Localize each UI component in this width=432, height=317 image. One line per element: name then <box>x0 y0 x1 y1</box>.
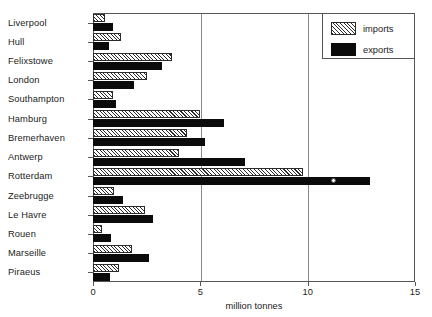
category-label: Southampton <box>8 94 82 104</box>
category-tick <box>88 253 93 254</box>
category-tick <box>88 42 93 43</box>
bar-exports <box>93 215 153 223</box>
category-tick <box>88 176 93 177</box>
bar-imports <box>93 168 303 176</box>
x-axis-title: million tonnes <box>93 301 415 311</box>
bar-imports <box>93 225 102 233</box>
category-tick <box>88 23 93 24</box>
bar-exports <box>93 234 111 242</box>
bar-imports <box>93 129 187 137</box>
bar-imports <box>93 110 200 118</box>
x-tick-label: 15 <box>410 287 420 298</box>
bar-imports <box>93 206 145 214</box>
bar-exports <box>93 100 116 108</box>
bar-imports <box>93 187 114 195</box>
bar-imports <box>93 53 172 61</box>
x-tick <box>308 282 309 286</box>
x-tick-label: 10 <box>302 287 312 298</box>
chart-legend: importsexports <box>322 13 415 59</box>
legend-label: exports <box>363 44 394 56</box>
bar-imports <box>93 14 105 22</box>
bar-exports <box>93 42 109 50</box>
category-tick <box>88 157 93 158</box>
bar-exports <box>93 158 245 166</box>
x-tick <box>200 282 201 286</box>
category-tick <box>88 138 93 139</box>
category-label: Piraeus <box>8 267 82 277</box>
x-tick <box>93 282 94 286</box>
bar-imports <box>93 72 147 80</box>
category-label: Rotterdam <box>8 171 82 181</box>
category-label: Antwerp <box>8 152 82 162</box>
category-tick <box>88 272 93 273</box>
category-label: Marseille <box>8 248 82 258</box>
bar-exports <box>93 119 224 127</box>
bar-imports <box>93 149 179 157</box>
bar-exports <box>93 81 134 89</box>
x-tick-label: 5 <box>198 287 203 298</box>
category-tick <box>88 119 93 120</box>
bar-chart: LiverpoolHullFelixstoweLondonSouthampton… <box>0 0 432 317</box>
legend-swatch-exports <box>331 43 356 56</box>
bar-imports <box>93 33 121 41</box>
category-label: London <box>8 75 82 85</box>
bar-imports <box>93 264 119 272</box>
bar-exports <box>93 62 162 70</box>
category-label: Rouen <box>8 229 82 239</box>
bar-exports <box>93 273 110 281</box>
legend-label: imports <box>363 23 393 35</box>
category-label: Felixstowe <box>8 56 82 66</box>
bar-exports <box>93 138 205 146</box>
category-label: Liverpool <box>8 18 82 28</box>
category-tick <box>88 196 93 197</box>
category-label: Bremerhaven <box>8 133 82 143</box>
category-tick <box>88 234 93 235</box>
bar-imports <box>93 91 113 99</box>
bar-exports <box>93 177 370 185</box>
category-label: Le Havre <box>8 210 82 220</box>
category-tick <box>88 61 93 62</box>
category-tick <box>88 80 93 81</box>
category-label: Hull <box>8 37 82 47</box>
legend-swatch-imports <box>331 22 356 35</box>
category-tick <box>88 215 93 216</box>
bar-exports <box>93 23 113 31</box>
category-label: Hamburg <box>8 114 82 124</box>
value-axis: million tonnes 051015 <box>93 282 415 316</box>
bar-exports <box>93 254 149 262</box>
bar-imports <box>93 245 132 253</box>
category-label: Zeebrugge <box>8 191 82 201</box>
x-tick-label: 0 <box>90 287 95 298</box>
x-tick <box>415 282 416 286</box>
category-tick <box>88 99 93 100</box>
bar-exports <box>93 196 123 204</box>
category-axis-labels: LiverpoolHullFelixstoweLondonSouthampton… <box>0 0 86 317</box>
